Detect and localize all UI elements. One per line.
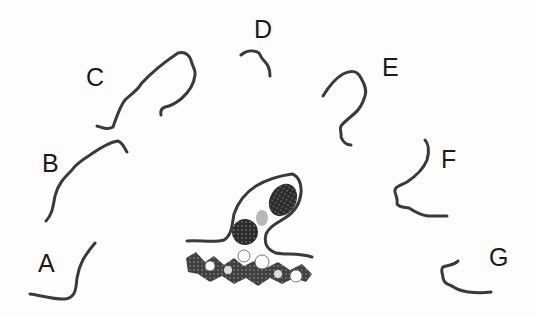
curve-stage-c <box>97 52 195 128</box>
structure-outline <box>187 174 312 257</box>
curve-stage-f <box>395 140 447 216</box>
label-d: D <box>254 15 272 43</box>
label-b: B <box>42 149 59 177</box>
curve-stage-d <box>241 51 270 76</box>
label-a: A <box>38 249 55 277</box>
diagram-canvas: A B C D E F G <box>0 0 537 316</box>
label-f: F <box>441 145 456 173</box>
lower-lobe <box>232 219 258 245</box>
label-c: C <box>86 63 104 91</box>
curve-stage-g <box>442 261 491 293</box>
curve-stage-e <box>323 71 366 145</box>
central-molecule-structure <box>186 174 312 286</box>
label-g: G <box>489 243 508 271</box>
membrane-stages-figure: A B C D E F G <box>0 0 537 316</box>
upper-lobe <box>263 179 303 221</box>
label-e: E <box>382 53 399 81</box>
